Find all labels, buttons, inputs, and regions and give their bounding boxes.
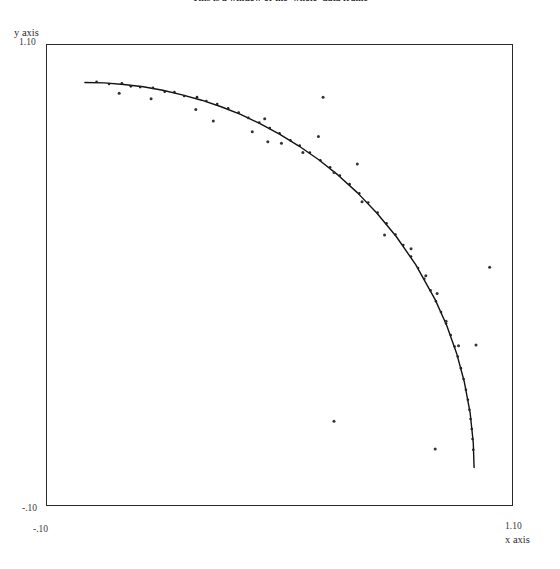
x-axis-tick-min: -.10 — [33, 524, 48, 534]
outlier-point — [251, 130, 254, 133]
data-point — [268, 127, 271, 130]
outlier-point — [356, 163, 359, 166]
data-point — [183, 95, 186, 98]
data-point — [237, 111, 240, 114]
outlier-point — [361, 200, 364, 203]
outlier-point — [488, 266, 491, 269]
outlier-point — [332, 171, 335, 174]
outlier-point — [263, 117, 266, 120]
data-point — [278, 132, 281, 135]
outlier-point — [317, 135, 320, 138]
outlier-point — [436, 292, 439, 295]
outlier-point-group — [118, 92, 491, 451]
outlier-point — [424, 274, 427, 277]
data-point — [205, 100, 208, 103]
outlier-point — [475, 344, 478, 347]
outlier-point — [118, 92, 121, 95]
data-point — [163, 90, 166, 93]
data-point — [108, 83, 111, 86]
unit-circle-arc — [85, 83, 474, 468]
data-point — [358, 192, 361, 195]
scatter-plot-canvas — [46, 44, 513, 506]
data-point — [402, 244, 405, 247]
data-point — [465, 388, 468, 391]
y-axis-tick-max: 1.10 — [19, 37, 36, 47]
outlier-point — [445, 320, 448, 323]
data-point — [440, 311, 443, 314]
data-point — [449, 334, 452, 337]
data-point — [196, 96, 199, 99]
data-point — [227, 107, 230, 110]
outlier-point — [434, 448, 437, 451]
data-point — [152, 87, 155, 90]
outlier-point — [212, 120, 215, 123]
data-point — [258, 121, 261, 124]
x-axis-tick-max: 1.10 — [505, 521, 522, 531]
outlier-point — [322, 96, 325, 99]
data-point — [429, 289, 432, 292]
outlier-point — [194, 108, 197, 111]
outlier-point — [457, 344, 460, 347]
data-point — [417, 267, 420, 270]
sample-point-group — [95, 80, 474, 451]
data-point — [423, 278, 426, 281]
data-point — [394, 233, 397, 236]
chart-title: This is a window of the 'whole' data fra… — [0, 0, 560, 4]
data-point — [329, 166, 332, 169]
data-point — [289, 139, 292, 142]
arc-series — [85, 83, 474, 468]
outlier-point — [266, 140, 269, 143]
data-point — [472, 448, 475, 451]
data-point — [247, 117, 250, 120]
data-point — [435, 300, 438, 303]
data-point — [339, 174, 342, 177]
data-point — [462, 378, 465, 381]
data-point — [130, 85, 133, 88]
data-point — [309, 151, 312, 154]
data-point — [410, 255, 413, 258]
data-point — [139, 86, 142, 89]
outlier-point — [150, 97, 153, 100]
outlier-point — [410, 247, 413, 250]
data-point — [453, 345, 456, 348]
data-point — [121, 82, 124, 85]
outlier-point — [332, 420, 335, 423]
y-axis-tick-min: -.10 — [22, 503, 37, 513]
data-point — [367, 201, 370, 204]
data-point — [216, 103, 219, 106]
data-point — [319, 159, 322, 162]
data-point — [385, 222, 388, 225]
x-axis-title: x axis — [505, 534, 530, 545]
data-point — [173, 91, 176, 94]
data-point — [469, 418, 472, 421]
data-point — [468, 408, 471, 411]
data-point — [376, 211, 379, 214]
data-point — [470, 428, 473, 431]
data-point — [467, 398, 470, 401]
outlier-point — [301, 151, 304, 154]
data-point — [471, 438, 474, 441]
data-point — [348, 183, 351, 186]
data-point — [95, 80, 98, 83]
outlier-point — [280, 142, 283, 145]
outlier-point — [383, 233, 386, 236]
data-point — [456, 355, 459, 358]
data-point — [298, 144, 301, 147]
data-point — [460, 367, 463, 370]
